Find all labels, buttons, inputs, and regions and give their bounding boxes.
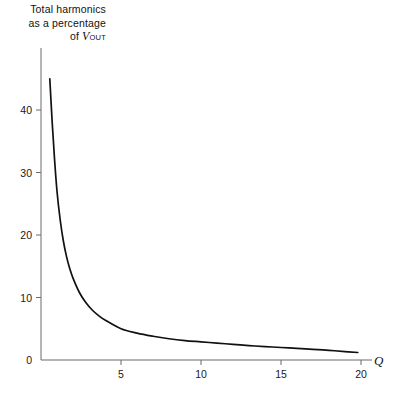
y-tick-label: 30 xyxy=(20,167,32,179)
y-axis-title: Total harmonics as a percentage of VOUT xyxy=(0,3,106,45)
v-subscript: OUT xyxy=(90,33,106,42)
harmonics-curve xyxy=(50,79,358,353)
y-axis-title-line-1: Total harmonics xyxy=(0,3,106,17)
x-tick-label: 10 xyxy=(195,368,207,380)
y-tick-label: 40 xyxy=(20,104,32,116)
plot-area: 0102030405101520 xyxy=(0,0,400,395)
x-tick-label: 20 xyxy=(355,368,367,380)
y-tick-label: 20 xyxy=(20,229,32,241)
tick-marks xyxy=(36,110,361,365)
x-axis-title: Q xyxy=(374,353,383,369)
y-axis-title-of: of xyxy=(70,30,82,42)
y-tick-label: 0 xyxy=(26,354,32,366)
y-tick-label: 10 xyxy=(20,292,32,304)
x-tick-label: 5 xyxy=(118,368,124,380)
y-axis-title-line-3: of VOUT xyxy=(0,30,106,45)
data-series xyxy=(50,79,358,353)
y-axis-title-line-2: as a percentage xyxy=(0,17,106,31)
v-symbol: V xyxy=(82,29,89,43)
axes xyxy=(41,48,372,360)
x-tick-label: 15 xyxy=(275,368,287,380)
chart-figure: Total harmonics as a percentage of VOUT … xyxy=(0,0,400,395)
tick-labels: 0102030405101520 xyxy=(20,104,367,380)
